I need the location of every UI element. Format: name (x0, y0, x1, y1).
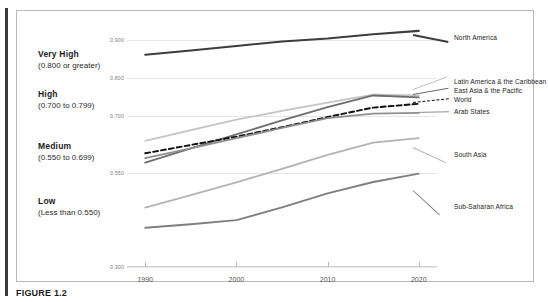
hdi-category-high: High(0.700 to 0.799) (38, 89, 94, 111)
hdi-category-medium: Medium(0.550 to 0.699) (38, 141, 94, 163)
figure-root: Very High(0.800 or greater)High(0.700 to… (0, 0, 548, 302)
series-label-arab-states: Arab States (454, 108, 490, 116)
hdi-category-low: Low(Less than 0.550) (38, 196, 100, 218)
chart-panel: Very High(0.800 or greater)High(0.700 to… (16, 10, 534, 282)
category-title: Very High (38, 49, 100, 60)
category-title: Low (38, 196, 100, 207)
y-tick-label: 0.550 (110, 170, 124, 176)
series-label-south-asia: South Asia (454, 151, 487, 159)
y-tick-label: 0.900 (110, 37, 124, 43)
series-label-sub-saharan-africa: Sub-Saharan Africa (454, 203, 513, 211)
series-label-latin-america-the-caribbean: Latin America & the Caribbean (454, 78, 546, 86)
x-tick-label: 1990 (137, 276, 153, 283)
x-tick-label: 2000 (229, 276, 245, 283)
left-edge-bar (5, 8, 8, 296)
series-line-north-america (145, 31, 419, 55)
gridline (127, 267, 437, 268)
series-lines (127, 29, 437, 267)
series-line-sub-saharan-africa (145, 174, 419, 228)
y-tick-label: 0.300 (110, 264, 124, 270)
series-line-east-asia-the-pacific (145, 95, 419, 162)
series-label-east-asia-the-pacific: East Asia & the Pacific (454, 87, 522, 95)
category-range: (0.550 to 0.699) (38, 152, 94, 163)
series-label-world: World (454, 96, 472, 104)
series-line-latin-america-the-caribbean (145, 95, 419, 141)
category-title: Medium (38, 141, 94, 152)
category-range: (0.800 or greater) (38, 60, 100, 71)
plot-area: 0.9000.8000.7000.5500.300 19902000201020… (127, 29, 437, 267)
y-tick-label: 0.800 (110, 75, 124, 81)
x-tick-label: 2020 (411, 276, 427, 283)
category-range: (Less than 0.550) (38, 207, 100, 218)
category-range: (0.700 to 0.799) (38, 100, 94, 111)
hdi-category-very-high: Very High(0.800 or greater) (38, 49, 100, 71)
figure-caption: FIGURE 1.2 (16, 288, 536, 298)
y-tick-label: 0.700 (110, 113, 124, 119)
category-title: High (38, 89, 94, 100)
series-label-north-america: North America (454, 34, 497, 42)
x-tick-label: 2010 (320, 276, 336, 283)
